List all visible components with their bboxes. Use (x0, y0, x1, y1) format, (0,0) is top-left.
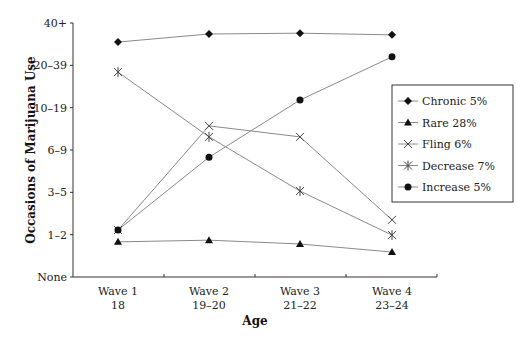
series-line (118, 72, 392, 235)
x-axis-ticks: Wave 118Wave 219–20Wave 321–22Wave 423–2… (98, 274, 437, 312)
x-tick-label: Wave 3 (280, 285, 320, 298)
x-tick-sublabel: 23–24 (375, 299, 409, 312)
y-tick-label: 10–19 (34, 102, 68, 115)
y-tick-label: 6–9 (48, 144, 68, 157)
legend-label: Rare 28% (422, 117, 477, 130)
line-chart: None1–23–56–910–1920–3940+ Wave 118Wave … (0, 0, 517, 344)
x-tick-sublabel: 18 (111, 299, 125, 312)
y-axis-title: Occasions of Marijuana Use (24, 56, 38, 244)
series-line (118, 57, 392, 230)
diamond-marker-icon (114, 38, 122, 46)
diamond-marker-icon (388, 31, 396, 39)
x-tick-label: Wave 4 (372, 285, 412, 298)
x-tick-sublabel: 19–20 (192, 299, 226, 312)
x-tick-label: Wave 1 (98, 285, 138, 298)
circle-marker-icon (405, 184, 412, 191)
circle-marker-icon (115, 227, 122, 234)
y-tick-label: 1–2 (48, 229, 68, 242)
legend-label: Decrease 7% (422, 160, 495, 173)
series-line (118, 240, 392, 252)
y-tick-label: 3–5 (48, 186, 68, 199)
x-tick-label: Wave 2 (189, 285, 229, 298)
circle-marker-icon (297, 97, 304, 104)
legend-label: Chronic 5% (422, 95, 487, 108)
diamond-marker-icon (205, 30, 213, 38)
y-tick-label: 20–39 (34, 59, 68, 72)
y-tick-label: None (37, 271, 67, 284)
y-axis-ticks: None1–23–56–910–1920–3940+ (34, 17, 74, 284)
asterisk-marker-icon (205, 132, 213, 142)
diamond-marker-icon (296, 29, 304, 37)
circle-marker-icon (389, 53, 396, 60)
triangle-marker-icon (205, 236, 213, 243)
y-tick-label: 40+ (44, 17, 67, 30)
legend-label: Fling 6% (422, 138, 472, 151)
series-rare (114, 236, 396, 255)
series-line (118, 33, 392, 42)
series-decrease (114, 67, 396, 240)
legend-label: Increase 5% (422, 181, 491, 194)
series-line (118, 126, 392, 230)
asterisk-marker-icon (296, 186, 304, 196)
asterisk-marker-icon (388, 230, 396, 240)
circle-marker-icon (206, 154, 213, 161)
x-tick-sublabel: 21–22 (283, 299, 317, 312)
series-chronic (114, 29, 396, 46)
series-lines (114, 29, 396, 255)
x-axis-title: Age (241, 314, 268, 328)
legend: Chronic 5%Rare 28%Fling 6%Decrease 7%Inc… (392, 85, 513, 202)
asterisk-marker-icon (114, 67, 122, 77)
series-increase (115, 53, 396, 233)
x-marker-icon (388, 216, 396, 224)
